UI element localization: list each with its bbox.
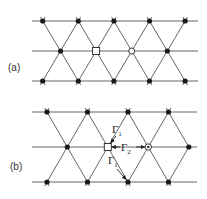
lattice-node <box>85 179 90 184</box>
lattice-node <box>147 18 152 23</box>
lattice-node <box>65 144 70 149</box>
lattice-node <box>40 18 45 23</box>
lattice-node <box>125 179 130 184</box>
panel-a: (a) <box>8 17 198 85</box>
lattice-node <box>40 78 45 83</box>
panel-label: (b) <box>10 161 22 172</box>
lattice-node <box>147 78 152 83</box>
lattice-node <box>183 18 188 23</box>
panel-b: (b)Γ1Γ2Γ1 <box>10 108 197 186</box>
lattice-node <box>58 48 63 53</box>
gamma-1-lower-label: Γ1 <box>108 154 118 169</box>
lattice-node <box>76 78 81 83</box>
lattice-node <box>186 144 191 149</box>
lattice-node <box>44 179 49 184</box>
crossed-circle-center <box>147 146 149 148</box>
lattice-node <box>125 109 130 114</box>
open-circle-marker <box>129 48 135 54</box>
lattice-node <box>183 78 188 83</box>
lattice-node <box>166 109 171 114</box>
lattice-node <box>111 18 116 23</box>
vacancy-square-marker <box>104 144 111 151</box>
lattice-node <box>111 78 116 83</box>
lattice-node <box>166 179 171 184</box>
lattice-node <box>44 109 49 114</box>
panel-label: (a) <box>8 62 20 73</box>
lattice-node <box>165 48 170 53</box>
vacancy-square-marker <box>93 48 100 55</box>
lattice-node <box>85 109 90 114</box>
lattice-node <box>76 18 81 23</box>
lattice-diagram: (a)(b)Γ1Γ2Γ1 <box>0 0 207 199</box>
gamma-2-label: Γ2 <box>121 141 131 156</box>
